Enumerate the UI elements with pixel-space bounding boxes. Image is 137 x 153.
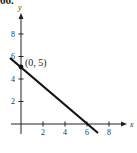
y-axis-label: y (17, 3, 22, 12)
chart-canvas: x y 2 4 6 8 2 4 6 8 (0, 5) (0, 0, 137, 153)
x-axis-arrow-icon (121, 122, 127, 127)
data-line (10, 58, 98, 133)
y-tick-label: 2 (11, 97, 15, 106)
y-axis-arrow-icon (19, 13, 24, 19)
x-tick-label: 2 (41, 128, 45, 137)
point-label: (0, 5) (25, 57, 47, 69)
intercept-point (19, 65, 24, 70)
y-tick-label: 8 (11, 30, 15, 39)
x-tick-label: 6 (85, 128, 89, 137)
x-tick-label: 4 (63, 128, 67, 137)
x-axis-label: x (129, 120, 134, 129)
y-tick-label: 4 (11, 75, 15, 84)
x-tick-label: 8 (107, 128, 111, 137)
